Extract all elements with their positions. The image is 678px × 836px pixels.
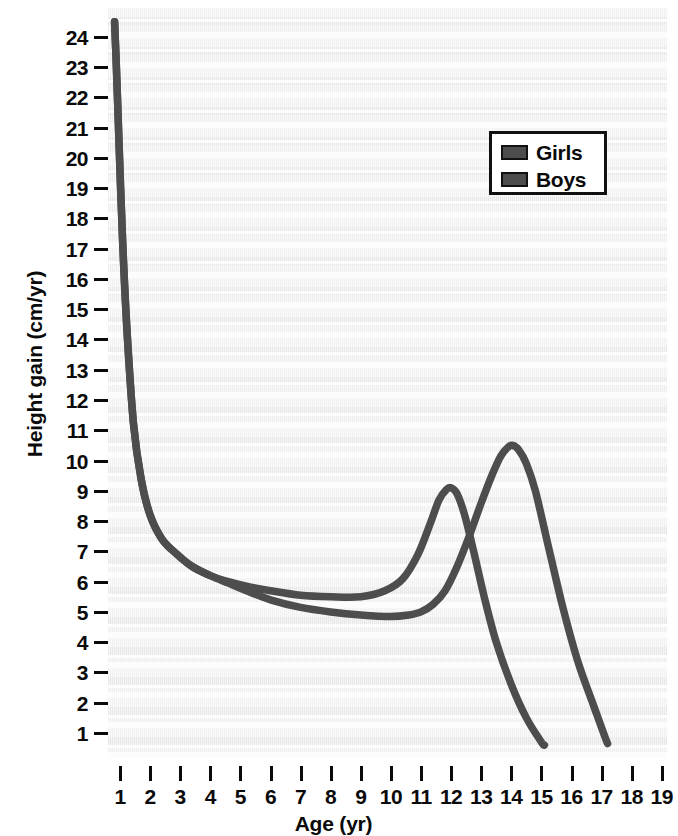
y-tick-label: 20: [44, 148, 88, 169]
x-tick-mark: [420, 766, 423, 781]
x-tick-mark: [149, 766, 152, 781]
y-tick-label: 19: [44, 178, 88, 199]
y-axis-title: Height gain (cm/yr): [23, 234, 47, 494]
y-tick-mark: [94, 490, 108, 493]
x-tick-mark: [239, 766, 242, 781]
y-tick-mark: [94, 157, 108, 160]
y-tick-label: 14: [44, 329, 88, 350]
y-tick-mark: [94, 429, 108, 432]
x-tick-mark: [540, 766, 543, 781]
y-tick-label: 1: [44, 723, 88, 744]
y-tick-mark: [94, 278, 108, 281]
y-tick-label: 16: [44, 269, 88, 290]
x-tick-mark: [480, 766, 483, 781]
y-tick-label: 15: [44, 299, 88, 320]
y-tick-label: 10: [44, 451, 88, 472]
y-tick-mark: [94, 399, 108, 402]
y-tick-label: 11: [44, 420, 88, 441]
y-tick-mark: [94, 96, 108, 99]
y-tick-mark: [94, 338, 108, 341]
x-axis-title: Age (yr): [0, 812, 667, 836]
y-tick-label: 5: [44, 602, 88, 623]
y-tick-mark: [94, 217, 108, 220]
y-tick-mark: [94, 641, 108, 644]
y-tick-label: 2: [44, 693, 88, 714]
horizontal-gridlines: [108, 8, 667, 758]
x-tick-label: 19: [642, 786, 678, 807]
legend-entry-girls: Girls: [501, 139, 604, 166]
legend-swatch-boys: [501, 172, 528, 187]
y-tick-label: 3: [44, 662, 88, 683]
x-tick-mark: [119, 766, 122, 781]
y-tick-mark: [94, 36, 108, 39]
y-tick-mark: [94, 550, 108, 553]
y-tick-mark: [94, 520, 108, 523]
y-tick-label: 21: [44, 118, 88, 139]
y-tick-label: 4: [44, 632, 88, 653]
y-tick-label: 8: [44, 511, 88, 532]
legend-label-girls: Girls: [536, 142, 582, 163]
y-tick-mark: [94, 369, 108, 372]
y-tick-mark: [94, 187, 108, 190]
x-tick-mark: [330, 766, 333, 781]
x-tick-mark: [571, 766, 574, 781]
legend-entry-boys: Boys: [501, 166, 604, 193]
y-tick-mark: [94, 308, 108, 311]
x-tick-mark: [450, 766, 453, 781]
y-tick-mark: [94, 460, 108, 463]
y-tick-label: 12: [44, 390, 88, 411]
x-tick-mark: [601, 766, 604, 781]
y-tick-label: 18: [44, 208, 88, 229]
y-tick-mark: [94, 611, 108, 614]
y-tick-mark: [94, 248, 108, 251]
x-tick-mark: [360, 766, 363, 781]
legend: Girls Boys: [489, 131, 607, 195]
y-tick-label: 23: [44, 57, 88, 78]
x-tick-mark: [270, 766, 273, 781]
y-tick-label: 22: [44, 87, 88, 108]
y-tick-mark: [94, 671, 108, 674]
x-tick-mark: [300, 766, 303, 781]
y-tick-mark: [94, 702, 108, 705]
legend-label-boys: Boys: [536, 169, 586, 190]
y-tick-label: 24: [44, 27, 88, 48]
y-tick-mark: [94, 127, 108, 130]
y-axis-ticks: 123456789101112131415161718192021222324: [38, 0, 108, 831]
x-tick-mark: [661, 766, 664, 781]
x-tick-mark: [390, 766, 393, 781]
x-tick-mark: [179, 766, 182, 781]
y-tick-label: 6: [44, 572, 88, 593]
y-tick-label: 17: [44, 239, 88, 260]
scan-texture-overlay: [108, 8, 667, 758]
x-tick-mark: [510, 766, 513, 781]
plot-area: [108, 8, 667, 758]
x-tick-mark: [209, 766, 212, 781]
y-tick-mark: [94, 66, 108, 69]
y-tick-mark: [94, 732, 108, 735]
y-tick-label: 13: [44, 360, 88, 381]
x-tick-mark: [631, 766, 634, 781]
y-tick-mark: [94, 581, 108, 584]
legend-swatch-girls: [501, 145, 528, 160]
y-tick-label: 9: [44, 481, 88, 502]
y-tick-label: 7: [44, 541, 88, 562]
